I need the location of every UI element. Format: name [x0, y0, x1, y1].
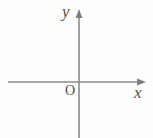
- x-axis-label: x: [134, 84, 142, 101]
- y-axis-arrowhead: [76, 9, 83, 18]
- axes-drawing: [0, 0, 153, 138]
- y-axis-label: y: [62, 3, 70, 20]
- y-axis-group: [76, 9, 83, 138]
- origin-label: O: [65, 84, 75, 98]
- x-axis-group: [8, 79, 146, 86]
- coordinate-axes-figure: y x O: [0, 0, 153, 138]
